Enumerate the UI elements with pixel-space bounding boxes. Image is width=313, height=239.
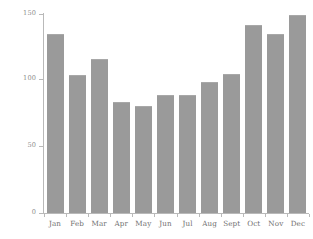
y-axis-label-0: 0	[0, 209, 36, 216]
bar-apr[interactable]	[113, 102, 130, 214]
bar-oct[interactable]	[245, 25, 262, 214]
bar-feb[interactable]	[69, 75, 86, 214]
bar-series	[44, 10, 309, 214]
x-axis-tick	[243, 214, 244, 217]
bar-may[interactable]	[135, 106, 152, 214]
bar-slot-aug	[199, 10, 221, 214]
y-axis-label-100: 100	[0, 75, 36, 82]
bar-slot-jan	[44, 10, 66, 214]
plot-area	[44, 10, 309, 214]
bar-slot-dec	[287, 10, 309, 214]
x-axis-tick	[132, 214, 133, 217]
bar-jan[interactable]	[47, 34, 64, 214]
x-axis-tick	[154, 214, 155, 217]
x-axis-tick	[221, 214, 222, 217]
x-axis-tick	[199, 214, 200, 217]
bar-aug[interactable]	[201, 82, 218, 214]
x-axis-label-sept: Sept	[221, 219, 243, 228]
x-axis-tick	[287, 214, 288, 217]
bar-slot-nov	[265, 10, 287, 214]
x-axis-label-jan: Jan	[44, 219, 66, 228]
x-axis-label-jul: Jul	[176, 219, 198, 228]
x-axis-label-mar: Mar	[88, 219, 110, 228]
y-axis-label-50: 50	[0, 142, 36, 149]
bar-slot-jun	[154, 10, 176, 214]
bar-slot-may	[132, 10, 154, 214]
x-axis-label-nov: Nov	[265, 219, 287, 228]
x-axis-tick	[110, 214, 111, 217]
bar-slot-mar	[88, 10, 110, 214]
x-axis-tick	[309, 214, 310, 217]
bar-jul[interactable]	[179, 95, 196, 214]
x-axis-tick	[177, 214, 178, 217]
bar-dec[interactable]	[289, 15, 306, 214]
bar-mar[interactable]	[91, 59, 108, 214]
x-axis-label-may: May	[132, 219, 154, 228]
bar-slot-oct	[243, 10, 265, 214]
x-axis-label-dec: Dec	[287, 219, 309, 228]
bar-slot-feb	[66, 10, 88, 214]
x-axis-tick	[66, 214, 67, 217]
bar-slot-sept	[221, 10, 243, 214]
bar-jun[interactable]	[157, 95, 174, 214]
rainfall-bar-chart: Average rainfall (mm) 150 100 50 0 Jan F…	[0, 0, 313, 239]
x-axis-tick	[44, 214, 45, 217]
x-axis-label-apr: Apr	[110, 219, 132, 228]
x-axis-tick	[265, 214, 266, 217]
bar-nov[interactable]	[267, 34, 284, 214]
x-axis-label-feb: Feb	[66, 219, 88, 228]
x-axis-tick	[88, 214, 89, 217]
bar-slot-jul	[176, 10, 198, 214]
x-axis-label-jun: Jun	[154, 219, 176, 228]
x-axis-labels: Jan Feb Mar Apr May Jun Jul Aug Sept Oct…	[44, 219, 309, 228]
y-axis-label-150: 150	[0, 10, 36, 17]
bar-slot-apr	[110, 10, 132, 214]
x-axis-label-aug: Aug	[199, 219, 221, 228]
bar-sept[interactable]	[223, 74, 240, 214]
x-axis-label-oct: Oct	[243, 219, 265, 228]
